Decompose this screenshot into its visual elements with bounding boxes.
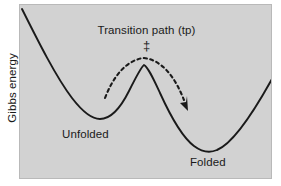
unfolded-state-label: Unfolded	[62, 129, 109, 141]
folded-state-label: Folded	[190, 157, 226, 169]
plot-panel: Transition path (tp) ‡ Unfolded Folded	[19, 4, 272, 179]
gibbs-energy-landscape-figure: Gibbs energy Transition path (tp) ‡ Unfo…	[0, 0, 281, 186]
transition-path-label: Transition path (tp)	[20, 25, 272, 37]
y-axis-label: Gibbs energy	[6, 28, 18, 148]
y-axis-label-area: Gibbs energy	[0, 0, 19, 186]
transition-state-dagger-symbol: ‡	[20, 39, 272, 52]
